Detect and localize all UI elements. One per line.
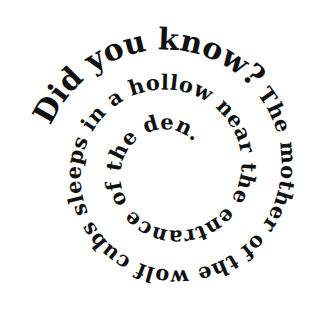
spiral-text-graphic: Did you know? The mother of the wolf cub… [0, 0, 332, 318]
fact-textpath: The mother of the wolf cubs sleeps in a … [60, 69, 301, 290]
fact-sentence: The mother of the wolf cubs sleeps in a … [60, 69, 301, 290]
spiral-canvas: Did you know? The mother of the wolf cub… [0, 0, 332, 318]
